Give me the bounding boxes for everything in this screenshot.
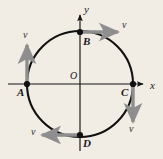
velocity-label-D: v <box>31 127 35 137</box>
point-label-A: A <box>17 87 24 98</box>
point-dot-A <box>24 81 30 87</box>
origin-label: O <box>70 71 77 81</box>
point-dot-C <box>130 81 136 87</box>
velocity-label-C: v <box>129 124 133 134</box>
point-label-C: C <box>121 87 128 98</box>
y-axis-label: y <box>84 4 89 15</box>
velocity-label-A: v <box>23 30 27 40</box>
figure-canvas <box>0 0 163 159</box>
x-axis-label: x <box>150 80 155 91</box>
point-label-B: B <box>83 36 90 47</box>
velocity-label-B: v <box>122 20 126 30</box>
circular-motion-figure: x y O A B C D v v v v <box>0 0 163 159</box>
point-label-D: D <box>83 138 91 149</box>
